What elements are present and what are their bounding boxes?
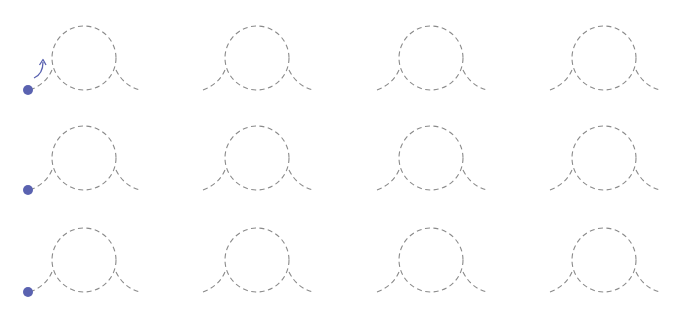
loop-cell	[550, 26, 660, 90]
track-entry-ramp	[30, 70, 52, 90]
track-loop	[399, 228, 463, 292]
track-exit-ramp	[636, 170, 660, 190]
track-entry-ramp	[550, 272, 572, 292]
track-loop	[399, 26, 463, 90]
track-exit-ramp	[636, 70, 660, 90]
track-loop	[399, 126, 463, 190]
track-exit-ramp	[636, 272, 660, 292]
track-exit-ramp	[116, 170, 140, 190]
track-entry-ramp	[30, 170, 52, 190]
track-loop	[52, 228, 116, 292]
loop-track-diagram	[0, 0, 680, 326]
track-loop	[225, 228, 289, 292]
loop-cell	[23, 126, 140, 195]
track-loop	[572, 228, 636, 292]
ball	[23, 85, 33, 95]
track-loop	[225, 26, 289, 90]
loop-cell	[23, 228, 140, 297]
loop-cell	[203, 126, 313, 190]
track-entry-ramp	[550, 70, 572, 90]
track-loop	[572, 26, 636, 90]
track-entry-ramp	[203, 170, 225, 190]
track-exit-ramp	[463, 70, 487, 90]
track-exit-ramp	[289, 272, 313, 292]
motion-arrow-icon	[34, 60, 46, 79]
track-loop	[52, 126, 116, 190]
track-exit-ramp	[116, 70, 140, 90]
loop-cell	[550, 228, 660, 292]
ball	[23, 287, 33, 297]
track-loop	[225, 126, 289, 190]
loop-cell	[377, 228, 487, 292]
loop-cell	[550, 126, 660, 190]
track-entry-ramp	[203, 272, 225, 292]
track-exit-ramp	[463, 170, 487, 190]
ball	[23, 185, 33, 195]
track-loop	[52, 26, 116, 90]
loop-cell	[23, 26, 140, 95]
track-exit-ramp	[289, 170, 313, 190]
track-loop	[572, 126, 636, 190]
loop-cell	[203, 26, 313, 90]
track-exit-ramp	[463, 272, 487, 292]
track-entry-ramp	[377, 70, 399, 90]
loop-cell	[377, 26, 487, 90]
track-entry-ramp	[30, 272, 52, 292]
loop-cell	[203, 228, 313, 292]
track-entry-ramp	[377, 272, 399, 292]
track-exit-ramp	[289, 70, 313, 90]
track-entry-ramp	[550, 170, 572, 190]
track-entry-ramp	[377, 170, 399, 190]
loop-cell	[377, 126, 487, 190]
track-exit-ramp	[116, 272, 140, 292]
track-entry-ramp	[203, 70, 225, 90]
